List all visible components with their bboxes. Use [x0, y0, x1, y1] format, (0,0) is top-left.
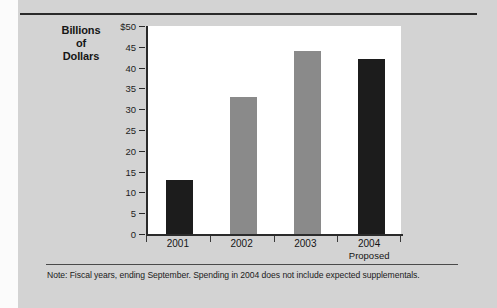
- y-axis-labels: 051015202530354045$50: [102, 26, 136, 234]
- y-axis-tick-mark: [139, 88, 145, 89]
- x-axis-label-text: 2003: [294, 238, 316, 249]
- bar-chart: Billions of Dollars 051015202530354045$5…: [40, 20, 460, 260]
- y-axis-tick-label: 20: [125, 145, 136, 156]
- y-axis-tick-mark: [139, 151, 145, 152]
- bar-2004: [358, 59, 385, 234]
- x-axis-label-2003: 2003: [294, 238, 316, 250]
- y-axis-tick-label: 10: [125, 187, 136, 198]
- y-axis-ticks: [139, 26, 146, 234]
- y-axis-tick-mark: [139, 26, 145, 27]
- y-axis-tick-mark: [139, 192, 145, 193]
- y-axis-tick-label: 25: [125, 125, 136, 136]
- x-axis-label-text: 2001: [167, 238, 189, 249]
- x-axis-sublabel-text: Proposed: [349, 250, 390, 262]
- plot-area: [146, 26, 401, 234]
- x-axis-label-2001: 2001: [167, 238, 189, 250]
- top-horizontal-rule: [20, 13, 477, 15]
- y-axis-tick-mark: [139, 234, 145, 235]
- y-axis-tick-label: 0: [131, 229, 136, 240]
- x-axis-label-text: 2002: [231, 238, 253, 249]
- y-axis-tick-mark: [139, 47, 145, 48]
- y-axis-tick-mark: [139, 68, 145, 69]
- y-axis-tick-mark: [139, 109, 145, 110]
- y-axis-tick-label: 5: [131, 208, 136, 219]
- y-axis-tick-label: 30: [125, 104, 136, 115]
- y-axis-tick-label: 15: [125, 166, 136, 177]
- y-axis-tick-mark: [139, 172, 145, 173]
- y-axis-tick-mark: [139, 213, 145, 214]
- bar-2001: [166, 180, 193, 234]
- y-axis-tick-label: 35: [125, 83, 136, 94]
- chart-note: Note: Fiscal years, ending September. Sp…: [47, 270, 467, 280]
- bar-2002: [230, 97, 257, 234]
- left-margin-strip: [0, 0, 18, 308]
- x-axis-label-text: 2004: [358, 238, 380, 249]
- x-axis-label-2002: 2002: [231, 238, 253, 250]
- x-axis-label-2004: 2004Proposed: [349, 238, 390, 262]
- y-axis-tick-label: 45: [125, 41, 136, 52]
- y-axis-tick-label: $50: [120, 21, 136, 32]
- bars-container: [148, 26, 401, 234]
- y-axis-tick-mark: [139, 130, 145, 131]
- y-axis-tick-label: 40: [125, 62, 136, 73]
- chart-page: Billions of Dollars 051015202530354045$5…: [0, 0, 497, 308]
- note-separator: [46, 264, 458, 265]
- bar-2003: [294, 51, 321, 234]
